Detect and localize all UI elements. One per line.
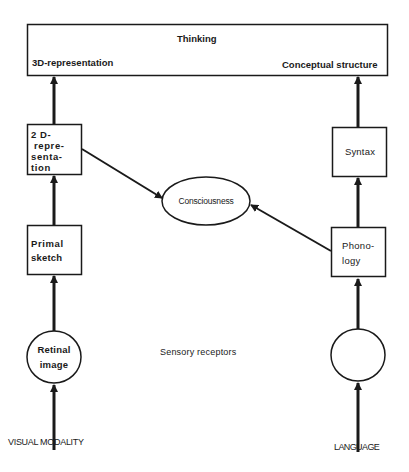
2d-line-1: 2 D- [31, 129, 65, 140]
2d-line-3: senta- [31, 151, 65, 162]
3d-representation-label: 3D-representation [32, 57, 113, 69]
retinal-line-1: Retinal [28, 342, 80, 357]
2d-line-4: tion [31, 162, 65, 173]
visual-modality-label: VISUAL MODALITY [8, 436, 84, 448]
primal-sketch-text: Primal sketch [31, 237, 64, 265]
retinal-line-2: image [28, 357, 80, 372]
phonology-line-2: logy [342, 253, 374, 268]
primal-line-1: Primal [31, 237, 64, 251]
language-receptor-circle [331, 329, 385, 381]
arrow-phonology-to-consciousness [251, 205, 331, 251]
retinal-image-text: Retinal image [28, 342, 80, 372]
primal-line-2: sketch [31, 251, 64, 265]
2d-line-2: repre- [31, 140, 65, 151]
syntax-text: Syntax [333, 146, 387, 157]
phonology-line-1: Phono- [342, 238, 374, 253]
sensory-receptors-label: Sensory receptors [160, 346, 236, 358]
language-label: LANGUAGE [334, 441, 379, 453]
phonology-text: Phono- logy [342, 238, 374, 268]
consciousness-label: Consciousness [162, 195, 250, 207]
conceptual-structure-label: Conceptual structure [282, 59, 378, 71]
arrow-2d-to-consciousness [82, 149, 162, 198]
2d-representation-text: 2 D- repre- senta- tion [31, 129, 65, 173]
thinking-title: Thinking [177, 33, 217, 45]
